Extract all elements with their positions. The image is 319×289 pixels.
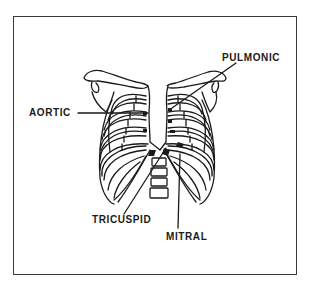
right-scapula bbox=[202, 92, 217, 112]
label-aortic: AORTIC bbox=[29, 108, 71, 118]
label-pulmonic: PULMONIC bbox=[222, 53, 280, 63]
vertebral-column bbox=[150, 158, 168, 198]
sternum bbox=[148, 86, 168, 150]
label-tricuspid: TRICUSPID bbox=[92, 215, 151, 225]
left-clavicle bbox=[84, 70, 148, 92]
rib-cage-illustration bbox=[0, 0, 319, 289]
left-ribs bbox=[100, 95, 151, 205]
label-mitral: MITRAL bbox=[166, 232, 207, 242]
right-clavicle bbox=[166, 71, 226, 92]
